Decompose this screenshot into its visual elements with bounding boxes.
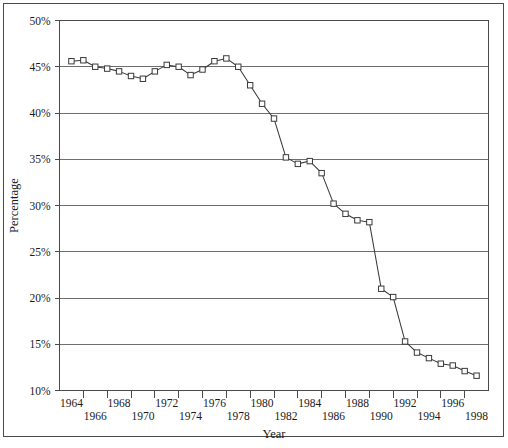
- data-point-1976: [212, 59, 217, 64]
- data-point-1977: [224, 56, 229, 61]
- series-markers-percentage: [69, 56, 480, 379]
- y-tick-label-45: 45%: [29, 61, 51, 73]
- data-point-1980: [259, 101, 264, 106]
- data-point-1975: [200, 67, 205, 72]
- data-point-1997: [462, 368, 467, 373]
- data-point-1996: [450, 363, 455, 368]
- x-tick-label-1988: 1988: [346, 397, 369, 409]
- data-point-1968: [116, 69, 121, 74]
- x-tick-label-1968: 1968: [108, 397, 131, 409]
- x-tick-label-1970: 1970: [131, 410, 154, 422]
- x-tick-label-1998: 1998: [465, 410, 488, 422]
- data-point-1978: [236, 64, 241, 69]
- data-point-1998: [474, 373, 479, 378]
- x-axis-title: Year: [262, 427, 286, 441]
- y-tick-label-15: 15%: [29, 338, 51, 350]
- x-tick-label-1982: 1982: [274, 410, 297, 422]
- x-tick-label-1966: 1966: [84, 410, 107, 422]
- data-point-1969: [128, 73, 133, 78]
- data-point-1982: [283, 155, 288, 160]
- x-tick-label-1996: 1996: [441, 397, 464, 409]
- data-point-1984: [307, 158, 312, 163]
- data-point-1990: [379, 286, 384, 291]
- y-tick-label-10: 10%: [29, 385, 51, 397]
- x-tick-label-1990: 1990: [370, 410, 393, 422]
- series-line-percentage: [71, 58, 476, 375]
- data-point-1994: [426, 355, 431, 360]
- data-point-1966: [93, 64, 98, 69]
- data-point-1973: [176, 64, 181, 69]
- x-tick-label-1974: 1974: [179, 410, 202, 422]
- x-tick-label-1992: 1992: [394, 397, 417, 409]
- x-tick-label-1978: 1978: [227, 410, 250, 422]
- data-point-1987: [343, 211, 348, 216]
- data-point-1965: [81, 58, 86, 63]
- y-tick-label-35: 35%: [29, 153, 51, 165]
- y-tick-label-30: 30%: [29, 200, 51, 212]
- y-tick-label-50: 50%: [29, 15, 51, 27]
- x-axis-tick-labels: 1964196819721976198019841988199219961966…: [60, 397, 488, 422]
- x-tick-label-1980: 1980: [251, 397, 274, 409]
- x-tick-label-1984: 1984: [298, 397, 321, 409]
- data-point-1991: [390, 294, 395, 299]
- y-tick-label-40: 40%: [29, 107, 51, 119]
- x-tick-label-1994: 1994: [417, 410, 440, 422]
- data-point-1974: [188, 72, 193, 77]
- data-point-1995: [438, 361, 443, 366]
- line-chart: 50%45%40%35%30%25%20%15%10% 196419681972…: [0, 0, 508, 448]
- x-tick-label-1976: 1976: [203, 397, 226, 409]
- x-tick-label-1972: 1972: [155, 397, 178, 409]
- data-point-1971: [152, 69, 157, 74]
- data-point-1989: [367, 219, 372, 224]
- y-tick-label-20: 20%: [29, 292, 51, 304]
- data-point-1967: [104, 66, 109, 71]
- data-point-1970: [140, 76, 145, 81]
- x-tick-label-1964: 1964: [60, 397, 83, 409]
- data-point-1993: [414, 350, 419, 355]
- data-point-1964: [69, 59, 74, 64]
- data-point-1983: [295, 161, 300, 166]
- y-tick-label-25: 25%: [29, 246, 51, 258]
- data-point-1981: [271, 116, 276, 121]
- gridlines-group: [55, 21, 489, 391]
- data-point-1979: [247, 83, 252, 88]
- y-axis-tick-labels: 50%45%40%35%30%25%20%15%10%: [29, 15, 51, 397]
- data-point-1986: [331, 201, 336, 206]
- data-point-1985: [319, 170, 324, 175]
- x-tick-label-1986: 1986: [322, 410, 345, 422]
- data-point-1988: [355, 218, 360, 223]
- figure-container: 50%45%40%35%30%25%20%15%10% 196419681972…: [0, 0, 508, 448]
- data-point-1972: [164, 62, 169, 67]
- data-point-1992: [402, 339, 407, 344]
- y-axis-title: Percentage: [7, 178, 21, 233]
